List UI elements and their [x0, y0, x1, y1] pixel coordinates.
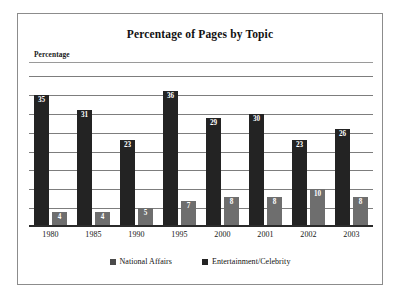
bar-2003-entertainment-celebrity[interactable]: 8 [353, 197, 368, 227]
bar-value-label: 26 [335, 130, 350, 139]
bar-2003-national-affairs[interactable]: 26 [335, 129, 350, 227]
chart-figure: Percentage of Pages by Topic Percentage … [17, 13, 383, 285]
x-axis-label-2003: 2003 [330, 230, 373, 239]
chart-legend: National AffairsEntertainment/Celebrity [18, 257, 382, 266]
x-axis-label-2002: 2002 [287, 230, 330, 239]
chart-title: Percentage of Pages by Topic [18, 28, 382, 40]
bar-value-label: 5 [138, 209, 153, 218]
x-axis-line [29, 225, 373, 227]
x-axis-labels: 19801985199019952000200120022003 [29, 230, 373, 239]
x-axis-label-1995: 1995 [158, 230, 201, 239]
bar-group: 2310 [287, 76, 330, 227]
bar-2000-entertainment-celebrity[interactable]: 8 [224, 197, 239, 227]
bar-2001-national-affairs[interactable]: 30 [249, 114, 264, 227]
bar-value-label: 8 [224, 198, 239, 207]
bar-group: 298 [201, 76, 244, 227]
bar-value-label: 30 [249, 115, 264, 124]
bar-value-label: 36 [163, 92, 178, 101]
bar-group: 314 [72, 76, 115, 227]
x-axis-label-1980: 1980 [29, 230, 72, 239]
legend-label: National Affairs [120, 257, 172, 266]
legend-label: Entertainment/Celebrity [212, 257, 290, 266]
bar-group: 235 [115, 76, 158, 227]
bar-2000-national-affairs[interactable]: 29 [206, 118, 221, 227]
bar-group: 308 [244, 76, 287, 227]
bar-1995-entertainment-celebrity[interactable]: 7 [181, 201, 196, 227]
bar-1990-national-affairs[interactable]: 23 [120, 140, 135, 227]
bar-value-label: 35 [34, 96, 49, 105]
bar-2002-entertainment-celebrity[interactable]: 10 [310, 189, 325, 227]
bar-1980-national-affairs[interactable]: 35 [34, 95, 49, 227]
bar-value-label: 31 [77, 111, 92, 120]
legend-item-entertainment-celebrity[interactable]: Entertainment/Celebrity [202, 257, 290, 266]
x-axis-label-2000: 2000 [201, 230, 244, 239]
bar-value-label: 4 [95, 213, 110, 222]
caption-divider [29, 62, 373, 63]
x-axis-label-1990: 1990 [115, 230, 158, 239]
bar-groups: 3543142353672983082310268 [29, 76, 373, 227]
bar-value-label: 23 [292, 141, 307, 150]
plot-area: 3543142353672983082310268 [29, 76, 373, 227]
x-axis-label-1985: 1985 [72, 230, 115, 239]
bar-value-label: 23 [120, 141, 135, 150]
legend-swatch-entertainment-celebrity [202, 259, 208, 265]
x-axis-label-2001: 2001 [244, 230, 287, 239]
bar-value-label: 4 [52, 213, 67, 222]
bar-1985-national-affairs[interactable]: 31 [77, 110, 92, 227]
bar-1995-national-affairs[interactable]: 36 [163, 91, 178, 227]
bar-value-label: 10 [310, 190, 325, 199]
bar-group: 354 [29, 76, 72, 227]
bar-value-label: 8 [353, 198, 368, 207]
bar-2002-national-affairs[interactable]: 23 [292, 140, 307, 227]
bar-group: 367 [158, 76, 201, 227]
legend-item-national-affairs[interactable]: National Affairs [110, 257, 172, 266]
bar-value-label: 29 [206, 119, 221, 128]
bar-group: 268 [330, 76, 373, 227]
bar-2001-entertainment-celebrity[interactable]: 8 [267, 197, 282, 227]
bar-value-label: 7 [181, 202, 196, 211]
y-axis-caption: Percentage [34, 50, 70, 59]
legend-swatch-national-affairs [110, 259, 116, 265]
bar-value-label: 8 [267, 198, 282, 207]
